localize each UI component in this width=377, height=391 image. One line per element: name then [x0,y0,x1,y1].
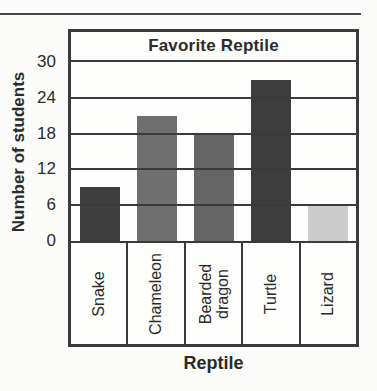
category-label-row: SnakeChameleonBearded dragonTurtleLizard [71,243,356,344]
category-cell-snake: Snake [71,243,128,344]
bar-bearded-dragon [194,134,234,241]
gridline-24 [71,97,356,99]
x-axis-title: Reptile [68,353,359,374]
chart-title-band: Favorite Reptile [71,32,356,62]
plot-area [71,62,356,243]
category-label-bearded-dragon: Bearded dragon [196,246,231,341]
bar-turtle [251,80,291,241]
y-axis-ticks: 3024181260 [0,62,64,241]
bar-lizard [308,205,348,241]
category-label-lizard: Lizard [320,246,337,341]
y-tick-24: 24 [37,88,56,108]
gridline-18 [71,133,356,135]
page-divider-rule [0,13,361,15]
y-tick-18: 18 [37,124,56,144]
chart-title: Favorite Reptile [148,36,279,56]
chart-frame: Favorite Reptile SnakeChameleonBearded d… [68,29,359,347]
category-cell-bearded-dragon: Bearded dragon [186,243,243,344]
category-label-snake: Snake [90,246,107,341]
bar-snake [80,187,120,241]
gridline-12 [71,168,356,170]
y-tick-6: 6 [47,195,56,215]
category-cell-turtle: Turtle [243,243,300,344]
y-tick-30: 30 [37,52,56,72]
x-axis-title-text: Reptile [183,353,243,373]
category-label-turtle: Turtle [262,246,279,341]
category-cell-chameleon: Chameleon [128,243,185,344]
y-tick-0: 0 [47,231,56,251]
category-label-chameleon: Chameleon [147,246,164,341]
gridline-6 [71,204,356,206]
category-cell-lizard: Lizard [301,243,356,344]
y-tick-12: 12 [37,159,56,179]
page: Number of students 3024181260 Favorite R… [0,0,377,391]
